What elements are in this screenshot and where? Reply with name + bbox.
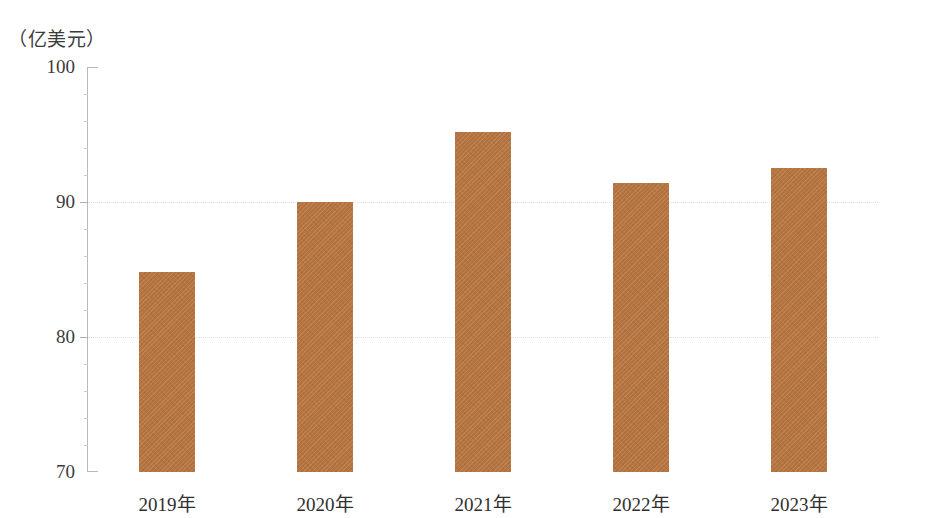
y-axis-unit-label: （亿美元） [8, 24, 106, 51]
y-axis-tick-minor [84, 391, 88, 392]
y-axis-tick-minor [84, 229, 88, 230]
plot-area: 100908070 [88, 67, 878, 472]
bar [297, 202, 353, 472]
y-axis-top-cap [87, 67, 98, 68]
y-axis-tick-major [80, 337, 88, 338]
y-axis-tick-minor [84, 175, 88, 176]
y-axis-tick-label: 80 [56, 326, 75, 348]
bar [455, 132, 511, 472]
y-axis-tick-label: 100 [47, 56, 76, 78]
y-axis-tick-major [80, 202, 88, 203]
y-axis-tick-minor [84, 445, 88, 446]
y-axis-tick-minor [84, 418, 88, 419]
x-axis-tick-label: 2023年 [729, 489, 869, 516]
y-axis-tick-minor [84, 256, 88, 257]
x-axis-tick-label: 2020年 [255, 489, 395, 516]
y-axis-bottom-cap [87, 471, 98, 472]
bar [139, 272, 195, 472]
y-axis-tick-label: 90 [56, 191, 75, 213]
bar-chart: （亿美元） 100908070 2019年2020年2021年2022年2023… [0, 0, 935, 518]
x-axis-tick-label: 2021年 [413, 489, 553, 516]
y-axis-tick-minor [84, 283, 88, 284]
y-axis-tick-minor [84, 94, 88, 95]
x-axis-tick-label: 2019年 [97, 489, 237, 516]
bar [613, 183, 669, 472]
y-axis-tick-minor [84, 310, 88, 311]
y-axis-tick-minor [84, 121, 88, 122]
y-axis-tick-label: 70 [56, 461, 75, 483]
bar [771, 168, 827, 472]
y-axis-tick-minor [84, 148, 88, 149]
y-axis-tick-minor [84, 364, 88, 365]
y-axis-line [87, 67, 88, 472]
x-axis-tick-label: 2022年 [571, 489, 711, 516]
